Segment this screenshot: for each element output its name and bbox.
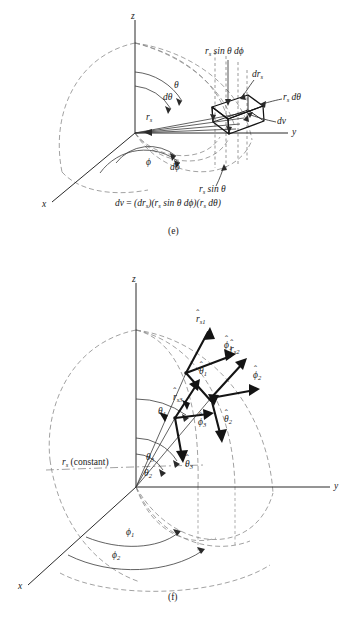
- e-label-r-s-sub: s: [150, 116, 153, 123]
- f-axis-label-z: z: [132, 275, 136, 285]
- f-thetahat1-hat: ̂: [199, 361, 204, 370]
- e-label-phi: ϕ: [146, 158, 151, 168]
- f-rhats1-hat: ̂: [196, 309, 200, 318]
- f-rhats3-index: 3: [179, 396, 182, 403]
- f-phihat1-hat: ̂: [224, 335, 229, 344]
- f-vectors-point2: [211, 363, 255, 437]
- e-eq-t3-close: dθ): [206, 198, 221, 208]
- axes: [52, 20, 288, 202]
- e-label-dtheta: dθ: [163, 93, 172, 103]
- f-phi2-sub: 2: [117, 554, 120, 561]
- e-rsintheta-rest: sin θ: [205, 184, 226, 194]
- f-thetahat1-hatwrap: ̂θ: [199, 367, 204, 377]
- figure-page: z y x θ dθ ϕ dϕ rs rs sin θ dϕ drs rs dθ…: [0, 0, 358, 617]
- f-rhats1-hatwrap: ̂r: [196, 315, 200, 325]
- f-projection-lines: [198, 487, 235, 553]
- f-label-rs-constant: rs (constant): [62, 458, 109, 469]
- panel-e-caption: (e): [168, 226, 179, 236]
- e-label-rsintheta-dphi: rs sin θ dϕ: [205, 47, 244, 58]
- f-x-axis: [28, 487, 136, 585]
- f-label-phi-1: ϕ1: [126, 528, 134, 539]
- f-thetahat3-index: 3: [190, 463, 193, 470]
- origin-arrowheads: [143, 129, 152, 136]
- e-axis-label-x: x: [42, 200, 46, 210]
- f-thetahat1-index: 1: [204, 370, 207, 377]
- e-axis-label-y: y: [292, 128, 296, 138]
- f-thetahat2-hat: ̂: [224, 409, 229, 418]
- e-label-dv: dv: [277, 117, 286, 127]
- f-label-theta-hat-3: ̂θ3: [185, 460, 193, 471]
- f-rhats3-hat: ̂: [173, 387, 177, 396]
- f-thetahat2-hatwrap: ̂θ: [224, 415, 229, 425]
- f-phi-arrowheads: [173, 529, 205, 554]
- f-phi1-sub: 1: [131, 531, 134, 538]
- theta3-arc: [136, 438, 177, 461]
- e-label-r-dtheta: rs dθ: [283, 93, 301, 104]
- f-phihat2-hatwrap: ̂ϕ: [253, 371, 258, 381]
- f-label-phi-hat-3: ̂ϕ3: [198, 418, 206, 429]
- f-rhats1-index: 1: [202, 318, 205, 325]
- f-label-phi-2: ϕ2: [112, 551, 120, 562]
- e-label-theta: θ: [174, 81, 179, 91]
- f-label-r-hat-s2: ̂rs2: [230, 345, 239, 356]
- f-rhats2-hat: ̂: [230, 339, 234, 348]
- phi2-arc: [68, 551, 202, 570]
- f-axis-label-y: y: [334, 482, 338, 492]
- panel-f-drawing: [0, 255, 358, 617]
- x-axis: [52, 133, 135, 202]
- panel-e-differential-volume: z y x θ dθ ϕ dϕ rs rs sin θ dϕ drs rs dθ…: [0, 0, 358, 255]
- leader-dv: [248, 114, 276, 122]
- f-rhats3-hatwrap: ̂r: [173, 393, 177, 403]
- panel-f-unit-vectors: z y x θ1 θ3 θ2 ϕ1 ϕ2 rs (constant) ̂rs1 …: [0, 255, 358, 617]
- panel-e-drawing: [0, 0, 358, 255]
- f-phihat3-index: 3: [203, 421, 206, 428]
- phi-arc: [100, 150, 180, 173]
- f-label-theta-3: θ3: [146, 453, 154, 464]
- f-thetahat3-hatwrap: ̂θ: [185, 460, 190, 470]
- f-label-theta-1: θ1: [158, 407, 166, 418]
- f-phihat3-hatwrap: ̂ϕ: [198, 418, 203, 428]
- f-phihat1-hatwrap: ̂ϕ: [224, 341, 229, 351]
- f-axis-label-x: x: [18, 582, 22, 592]
- e-axis-label-z: z: [131, 12, 135, 22]
- e-label-r-s: rs: [146, 113, 152, 124]
- e-equation-equals: =: [124, 198, 134, 208]
- f-label-r-hat-s1: ̂rs1: [196, 315, 205, 326]
- f-theta3-sub: 3: [151, 456, 154, 463]
- e-label-dphi: dϕ: [170, 163, 180, 173]
- f-axes: [28, 283, 330, 585]
- f-theta2-sub: 2: [149, 472, 152, 479]
- f-label-theta-hat-2: ̂θ2: [224, 415, 232, 426]
- e-eq-t1-open: (dr: [134, 198, 146, 208]
- f-rs-constant-rest: (constant): [68, 457, 108, 467]
- f-phihat2-index: 2: [258, 374, 261, 381]
- f-label-r-hat-s3: ̂rs3: [173, 393, 182, 404]
- e-equation-lhs: dv: [115, 198, 124, 208]
- f-label-theta-2: θ2: [144, 469, 152, 480]
- e-label-r-sin-theta: rs sin θ: [199, 185, 226, 196]
- panel-f-caption: (f): [168, 592, 178, 602]
- f-thetahat3-hat: ̂: [185, 454, 190, 463]
- f-phihat3-hat: ̂: [198, 412, 203, 421]
- f-label-phi-hat-2: ̂ϕ2: [253, 371, 261, 382]
- f-theta1-sub: 1: [163, 410, 166, 417]
- e-label-drs: drs: [252, 70, 263, 81]
- e-equation: dv = (drs)(rs sin θ dϕ)(rs dθ): [115, 199, 221, 210]
- e-drs-sub: s: [260, 73, 263, 80]
- f-rhats2-hatwrap: ̂r: [230, 345, 234, 355]
- f-thetahat2-index: 2: [229, 418, 232, 425]
- f-phi-arcs: [68, 533, 202, 570]
- f-phihat2-hat: ̂: [253, 365, 258, 374]
- e-eq-t2-close: sin θ dϕ): [161, 198, 197, 208]
- f-label-theta-hat-1: ̂θ1: [199, 367, 207, 378]
- e-rdtheta-rest: dθ: [289, 92, 301, 102]
- f-rhats2-index: 2: [236, 348, 239, 355]
- e-rsintheta-dphi-rest: sin θ dϕ: [214, 46, 244, 56]
